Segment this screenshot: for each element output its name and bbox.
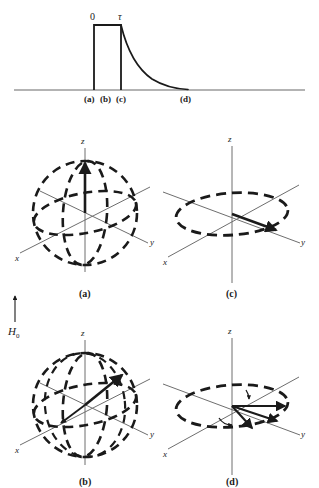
timeline-label-c: (c) <box>116 95 126 104</box>
bloch-sphere-panel-b <box>20 340 150 465</box>
bloch-sphere-panel-d <box>163 338 300 475</box>
panel-d-phase-arc-lower <box>219 418 232 425</box>
panel-d-label-y: y <box>301 430 305 439</box>
static-field-symbol: H <box>8 325 16 337</box>
timeline-label-a: (a) <box>84 95 95 104</box>
panel-a-label-x: x <box>15 254 19 263</box>
static-field-subscript: 0 <box>16 332 20 340</box>
bloch-sphere-panel-c <box>163 146 300 283</box>
pulse-timing-diagram <box>14 25 305 90</box>
panel-c-label-y: y <box>301 238 305 247</box>
panel-d-label-x: x <box>163 450 167 459</box>
pulse-tau-label: τ <box>118 12 122 22</box>
panel-a-caption: (a) <box>79 289 91 299</box>
panel-a-label-z: z <box>81 137 85 146</box>
panel-b-label-y: y <box>150 430 154 439</box>
panel-c-label-z: z <box>228 135 232 144</box>
pulse-rectangle <box>94 25 121 90</box>
panel-c-axis-x <box>168 185 299 257</box>
pulse-decay-curve <box>121 25 188 90</box>
panel-d-caption: (d) <box>226 477 238 487</box>
figure-canvas <box>0 0 319 488</box>
panel-d-phase-arc-upper <box>246 390 249 399</box>
panel-b-caption: (b) <box>79 477 91 487</box>
panel-c-magnetization-vector <box>232 214 276 230</box>
timeline-label-d: (d) <box>180 95 191 104</box>
panel-c-label-x: x <box>163 258 167 267</box>
panel-d-label-z: z <box>228 327 232 336</box>
panel-b-label-x: x <box>15 446 19 455</box>
panel-a-label-y: y <box>150 238 154 247</box>
static-field-label: H0 <box>8 326 19 340</box>
bloch-sphere-panel-a <box>20 148 150 272</box>
figure-root: 0 τ (a) (b) (c) (d) H0 z x y (a) z x y (… <box>0 0 319 488</box>
panel-b-label-z: z <box>81 329 85 338</box>
pulse-start-label: 0 <box>90 12 95 22</box>
timeline-label-b: (b) <box>100 95 111 104</box>
panel-b-magnetization-vector <box>85 375 122 405</box>
panel-c-caption: (c) <box>226 289 237 299</box>
panel-d-axis-x <box>168 377 299 449</box>
